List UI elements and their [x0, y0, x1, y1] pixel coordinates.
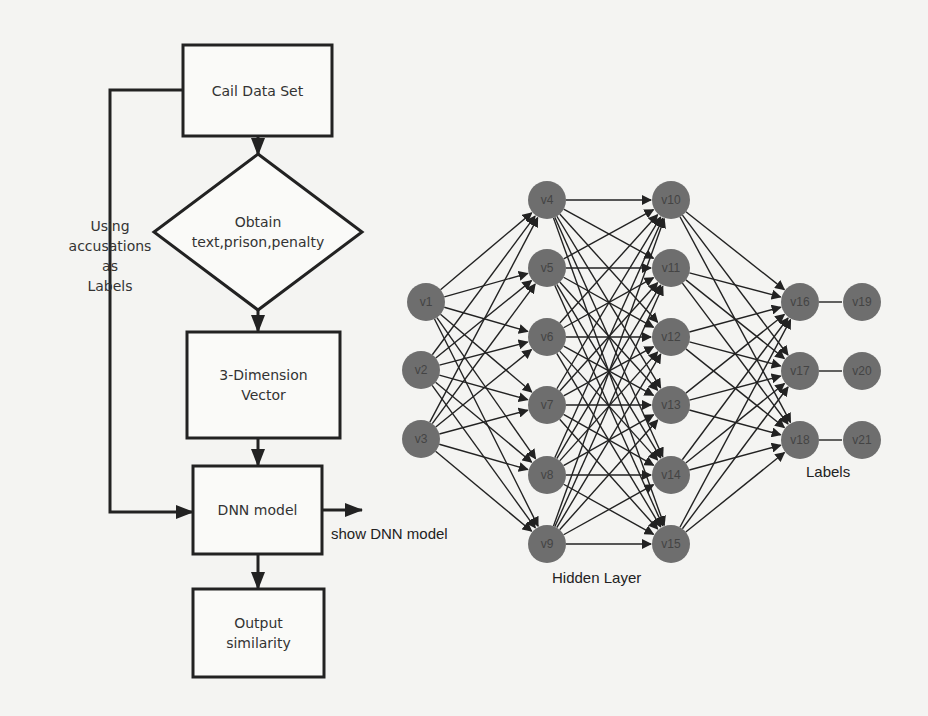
node-label: v14 — [661, 468, 681, 482]
node-v5: v5 — [528, 249, 566, 287]
hidden-layer-caption: Hidden Layer — [552, 569, 641, 586]
node-label: v20 — [852, 364, 872, 378]
network-edges — [430, 200, 842, 544]
node-label: v11 — [662, 261, 681, 275]
flow-node-label: Cail Data Set — [212, 83, 304, 99]
dnn-network: v1v2v3v4v5v6v7v8v9v10v11v12v13v14v15v16v… — [402, 181, 881, 586]
flow-node-label: Obtain — [235, 214, 282, 230]
node-label: v15 — [661, 537, 681, 551]
edge-v3-v6 — [436, 350, 532, 427]
flow-node-dnn: DNN model — [193, 466, 322, 554]
node-label: v1 — [420, 295, 433, 309]
arrow-labels-loop — [110, 90, 193, 512]
flow-node-label: Output — [234, 615, 283, 631]
side-label-line: as — [102, 258, 118, 274]
node-v16: v16 — [781, 283, 819, 321]
node-label: v19 — [852, 295, 872, 309]
node-label: v3 — [415, 432, 428, 446]
node-label: v8 — [541, 468, 554, 482]
node-v17: v17 — [781, 352, 819, 390]
node-label: v18 — [790, 433, 810, 447]
flow-node-label: text,prison,penalty — [192, 234, 324, 250]
node-label: v2 — [415, 363, 428, 377]
node-v8: v8 — [528, 456, 566, 494]
flow-node-vector: 3-DimensionVector — [187, 332, 340, 438]
node-label: v10 — [661, 193, 681, 207]
node-v21: v21 — [843, 421, 881, 459]
node-v9: v9 — [528, 525, 566, 563]
node-v7: v7 — [528, 386, 566, 424]
node-label: v17 — [790, 364, 810, 378]
edge-v15-v17 — [682, 387, 788, 529]
node-label: v12 — [661, 330, 681, 344]
node-v1: v1 — [407, 283, 445, 321]
node-v20: v20 — [843, 352, 881, 390]
node-v10: v10 — [652, 181, 690, 219]
node-v18: v18 — [781, 421, 819, 459]
node-label: v6 — [541, 330, 554, 344]
edge-v1-v4 — [441, 213, 532, 290]
node-label: v13 — [661, 398, 681, 412]
flow-diamond — [154, 154, 362, 310]
edge-v3-v5 — [432, 284, 535, 424]
flow-node-label: 3-Dimension — [219, 367, 307, 383]
diagram-canvas: Cail Data SetObtaintext,prison,penalty3-… — [0, 0, 928, 716]
side-label-line: Labels — [87, 278, 132, 294]
node-label: v9 — [541, 537, 554, 551]
node-v4: v4 — [528, 181, 566, 219]
side-label-line: accusations — [69, 238, 152, 254]
edge-v3-v9 — [436, 451, 532, 531]
node-v6: v6 — [528, 318, 566, 356]
edge-v2-v4 — [432, 216, 535, 355]
node-v3: v3 — [402, 420, 440, 458]
labels-caption: Labels — [806, 463, 850, 480]
node-v11: v11 — [652, 249, 690, 287]
edge-v15-v16 — [680, 320, 791, 528]
flow-node-label: similarity — [226, 635, 291, 651]
node-v19: v19 — [843, 283, 881, 321]
node-v15: v15 — [652, 525, 690, 563]
node-v2: v2 — [402, 351, 440, 389]
node-label: v21 — [852, 433, 872, 447]
flow-box — [187, 332, 340, 438]
flow-node-label: Vector — [241, 387, 286, 403]
edge-v10-v16 — [686, 212, 784, 290]
node-v13: v13 — [652, 386, 690, 424]
flow-node-cail: Cail Data Set — [183, 45, 332, 136]
flow-node-obtain: Obtaintext,prison,penalty — [154, 154, 362, 310]
flow-node-output: Outputsimilarity — [193, 589, 324, 677]
flow-box — [193, 589, 324, 677]
edge-v13-v16 — [686, 314, 785, 393]
node-v14: v14 — [652, 456, 690, 494]
node-label: v4 — [541, 193, 554, 207]
flowchart: Cail Data SetObtaintext,prison,penalty3-… — [69, 45, 448, 677]
node-v12: v12 — [652, 318, 690, 356]
node-label: v7 — [541, 398, 554, 412]
side-label-line: Using — [90, 218, 129, 234]
edge-v15-v18 — [686, 453, 785, 533]
node-label: v16 — [790, 295, 810, 309]
node-label: v5 — [541, 261, 554, 275]
flow-node-label: DNN model — [218, 502, 298, 518]
show-dnn-model-label: show DNN model — [331, 525, 448, 542]
